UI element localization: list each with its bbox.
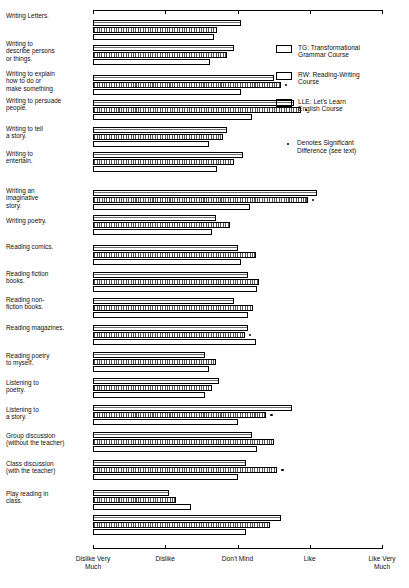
bar-rw [93,522,270,528]
bar-rw [93,107,301,113]
axis-tick [238,545,239,549]
bar-lle [93,59,210,65]
legend-significance-note: Denotes Significant Difference (see text… [297,139,409,155]
horizontal-bar-chart: Writing Letters.Writing to describe pers… [0,0,409,588]
bar-lle [93,229,212,235]
bar-tg [93,127,227,133]
legend-label-tg: TG: Transformational Grammar Course [298,44,409,60]
bar-tg [93,298,234,304]
bar-rw [93,159,234,165]
axis-tick [93,10,94,14]
category-label: Class discussion (with the teacher) [6,460,88,475]
axis-tick [165,545,166,549]
category-label: Writing to explain how to do or make som… [6,70,88,92]
bar-lle [93,419,238,425]
legend-swatch-lle [276,99,292,107]
bar-tg [93,20,241,26]
bar-lle [93,392,205,398]
axis-tick-label: Don't Mind [208,555,268,563]
axis-tick-label: Like [280,555,340,563]
bar-lle [93,114,252,120]
bar-rw [93,385,212,391]
bar-rw [93,222,230,228]
bar-tg [93,460,246,466]
significance-dot [285,84,287,86]
bar-lle [93,446,257,452]
bar-rw [93,197,308,203]
category-label: Reading magazines. [6,324,88,331]
bar-tg [93,432,252,438]
axis-tick [382,545,383,549]
bar-rw [93,52,227,58]
bar-rw [93,412,266,418]
axis-tick [382,10,383,14]
bar-lle [93,89,241,95]
category-label: Listening to poetry. [6,379,88,394]
bar-lle [93,141,209,147]
bar-rw [93,332,245,338]
significance-dot [249,334,251,336]
category-label: Reading comics. [6,243,88,250]
category-label: Writing poetry. [6,217,88,224]
axis-tick [310,545,311,549]
category-label: Play reading in class. [6,490,88,505]
category-label: Writing to entertain. [6,150,88,165]
bar-lle [93,34,214,40]
category-label: Reading fiction books. [6,270,88,285]
axis-tick [310,10,311,14]
bar-tg [93,190,317,196]
bar-rw [93,27,217,33]
bar-tg [93,405,292,411]
bar-tg [93,75,274,81]
significance-dot [270,414,272,416]
category-label: Listening to a story. [6,406,88,421]
category-label: Group discussion (without the teacher) [6,432,88,447]
bar-lle [93,204,250,210]
axis-tick [165,10,166,14]
bar-rw [93,82,281,88]
significance-dot [281,469,283,471]
bar-rw [93,467,277,473]
bar-tg [93,352,205,358]
bar-lle [93,529,246,535]
significance-dot [312,199,314,201]
axis-tick [238,10,239,14]
bar-rw [93,305,253,311]
axis-tick [93,545,94,549]
category-label: Reading poetry to myself. [6,352,88,367]
bar-tg [93,45,234,51]
bar-rw [93,134,223,140]
bar-tg [93,272,248,278]
axis-tick-label: Dislike Very Much [63,555,123,570]
bar-rw [93,252,256,258]
bar-lle [93,366,209,372]
bar-lle [93,312,248,318]
axis-tick-label: Dislike [135,555,195,563]
bar-lle [93,166,217,172]
legend-swatch-rw [276,72,292,80]
bar-lle [93,504,191,510]
bar-rw [93,497,176,503]
bar-tg [93,515,281,521]
bar-tg [93,325,248,331]
bar-tg [93,245,238,251]
bar-rw [93,279,259,285]
bar-tg [93,215,216,221]
bar-lle [93,474,238,480]
axis-tick-label: Like Very Much [352,555,409,570]
category-label: Writing to describe persons or things. [6,40,88,62]
category-label: Writing Letters. [6,12,88,19]
bar-lle [93,286,257,292]
bar-rw [93,359,216,365]
bar-tg [93,378,219,384]
category-label: Writing an imaginative story. [6,187,88,209]
bar-lle [93,259,241,265]
bar-tg [93,100,294,106]
category-label: Writing to persuade people. [6,97,88,112]
legend-significance-dot [287,143,289,145]
bar-tg [93,490,169,496]
legend-label-lle: LLE: Let's Learn English Course [298,98,409,114]
legend-label-rw: RW: Reading-Writing Course [298,71,409,87]
category-label: Writing to tell a story. [6,125,88,140]
legend-swatch-tg [276,45,292,53]
